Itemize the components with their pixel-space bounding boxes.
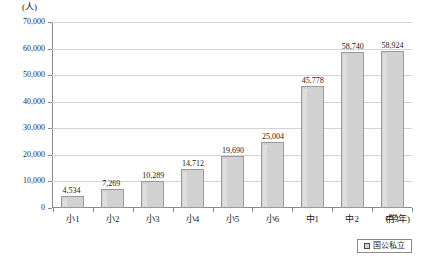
bar-chart: (人) 010,00020,00030,00040,00050,00060,00… [0,0,436,264]
x-axis-tick-label: 中1 [292,212,332,226]
bar: 19,690 [221,156,244,208]
x-axis-tick-label: 小2 [93,212,133,226]
bar: 4,534 [61,196,84,208]
plot-area: 010,00020,00030,00040,00050,00060,00070,… [52,22,412,208]
y-axis-tick-mark [48,208,52,209]
x-axis-tick-label: 小5 [213,212,253,226]
x-axis-tick-label: 中2 [332,212,372,226]
bar-value-label: 19,690 [222,146,244,155]
bar-value-label: 58,740 [342,42,364,51]
bar-slot: 58,924 [372,22,412,208]
bar: 7,269 [101,189,124,208]
y-axis-tick-mark [48,128,52,129]
bar-value-label: 25,004 [262,132,284,141]
bar-slot: 7,269 [93,22,133,208]
bar-value-label: 45,778 [302,76,324,85]
bar-value-label: 58,924 [382,41,404,50]
bar-slot: 10,289 [133,22,173,208]
y-axis-tick-label: 0 [41,204,45,212]
x-axis-caption: (学年) [386,212,410,226]
bar-slot: 4,534 [53,22,93,208]
y-axis-tick-label: 50,000 [23,71,45,79]
bar: 10,289 [141,181,164,208]
y-axis-tick-mark [48,49,52,50]
legend: 国公私立 [357,239,412,253]
bar-value-label: 4,534 [62,186,80,195]
bar-slot: 25,004 [252,22,292,208]
x-axis-tick-label: 小3 [133,212,173,226]
x-axis-tick-label: 小4 [173,212,213,226]
y-axis-tick-label: 30,000 [23,124,45,132]
bar-slot: 19,690 [213,22,253,208]
bar-series-group: 4,5347,26910,28914,71219,69025,00445,778… [53,22,412,208]
bar: 14,712 [181,169,204,208]
x-axis-tick-label: 小6 [252,212,292,226]
bar-value-label: 7,269 [102,179,120,188]
legend-swatch-icon [364,243,370,249]
y-axis-tick-mark [48,75,52,76]
bar-slot: 45,778 [292,22,332,208]
x-axis-labels: 小1小2小3小4小5小6中1中2中3 [53,212,412,226]
x-axis-tick-mark [412,208,413,212]
y-axis-tick-mark [48,155,52,156]
legend-label: 国公私立 [373,241,405,251]
y-axis-tick-label: 60,000 [23,45,45,53]
y-axis-tick-label: 40,000 [23,98,45,106]
bar-value-label: 14,712 [182,159,204,168]
bar: 58,740 [341,52,364,208]
bar-value-label: 10,289 [142,171,164,180]
x-axis-tick-label: 小1 [53,212,93,226]
y-axis-tick-mark [48,181,52,182]
y-axis-tick-mark [48,102,52,103]
y-axis-tick-mark [48,22,52,23]
y-axis-unit-label: (人) [22,2,37,13]
bar-slot: 58,740 [332,22,372,208]
bar: 45,778 [301,86,324,208]
bar: 25,004 [261,142,284,208]
bar: 58,924 [381,51,404,208]
y-axis-tick-label: 70,000 [23,18,45,26]
y-axis-tick-label: 10,000 [23,177,45,185]
bar-slot: 14,712 [173,22,213,208]
y-axis-tick-label: 20,000 [23,151,45,159]
